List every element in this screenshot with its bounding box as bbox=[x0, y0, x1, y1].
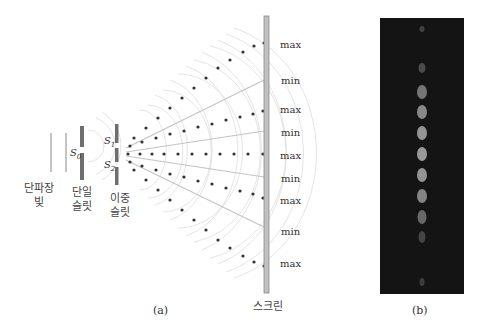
fringe bbox=[419, 231, 426, 243]
screen-bar bbox=[264, 16, 269, 293]
single-slit-label: 단일 슬릿 bbox=[64, 186, 100, 214]
fringe bbox=[417, 105, 427, 119]
fringe bbox=[418, 210, 427, 224]
caption-b: (b) bbox=[412, 304, 428, 317]
interference-photo bbox=[380, 18, 464, 294]
screen-mark-min: min bbox=[281, 226, 300, 237]
fringe bbox=[417, 189, 427, 203]
s2-label: S2 bbox=[104, 159, 115, 173]
screen-mark-min: min bbox=[281, 173, 300, 184]
fringe bbox=[420, 278, 425, 286]
double-slit-figure: S0 S1 S2 단파장 빛 단일 슬릿 이중 슬릿 스크린 max min m… bbox=[0, 0, 494, 334]
fringe bbox=[417, 147, 427, 161]
screen-mark-max: max bbox=[280, 104, 301, 115]
constructive-points bbox=[126, 41, 265, 267]
screen-mark-max: max bbox=[280, 150, 301, 161]
screen-mark-min: min bbox=[281, 127, 300, 138]
double-slit-barrier bbox=[115, 124, 119, 185]
fringe bbox=[417, 85, 427, 99]
fringe bbox=[417, 168, 427, 182]
screen-label: 스크린 bbox=[248, 300, 288, 314]
nodal-lines bbox=[126, 80, 264, 227]
fringe bbox=[419, 63, 426, 73]
double-slit-label: 이중 슬릿 bbox=[102, 192, 138, 220]
screen-mark-max: max bbox=[280, 39, 301, 50]
screen-mark-max: max bbox=[280, 258, 301, 269]
s1-label: S1 bbox=[104, 135, 115, 149]
fringe bbox=[417, 126, 427, 140]
caption-a: (a) bbox=[153, 304, 168, 317]
light-source-label: 단파장 빛 bbox=[14, 182, 64, 210]
fringe bbox=[420, 26, 425, 32]
s0-label: S0 bbox=[70, 147, 81, 161]
light-source-lines bbox=[51, 133, 66, 172]
screen-mark-min: min bbox=[281, 75, 300, 86]
screen-mark-max: max bbox=[280, 195, 301, 206]
